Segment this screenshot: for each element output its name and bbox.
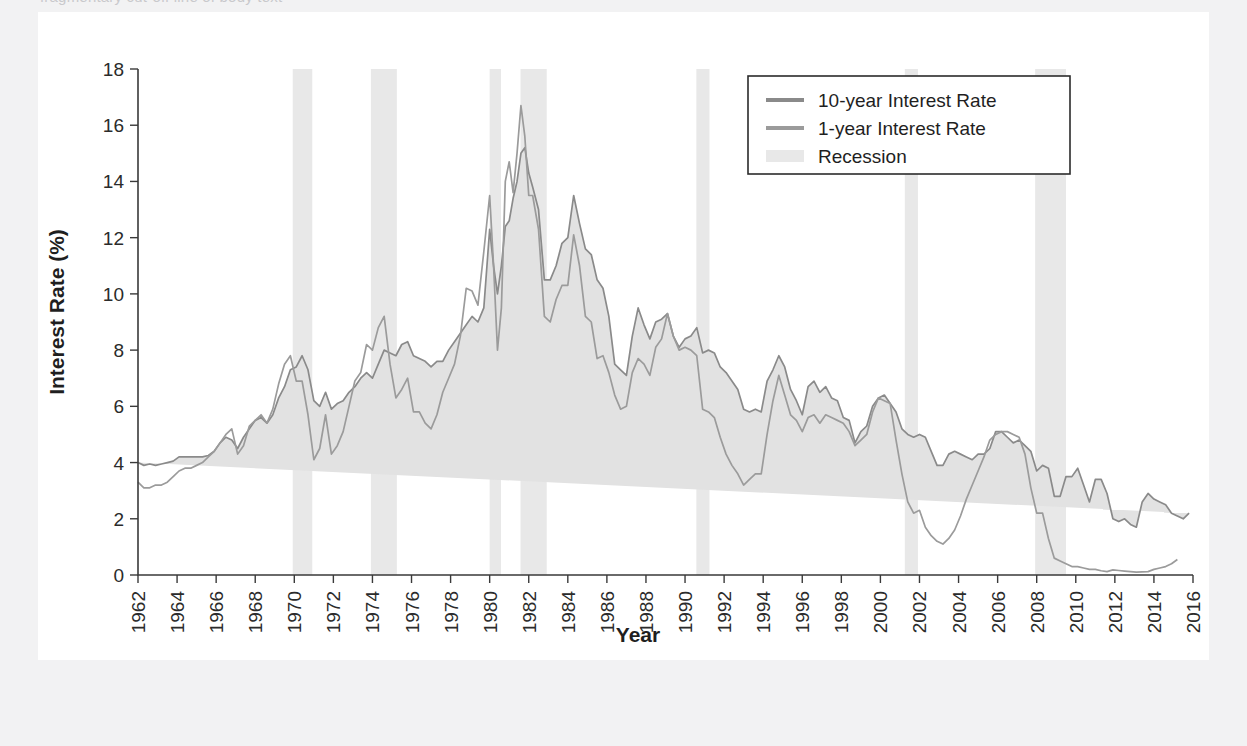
x-tick-label: 1980: [480, 591, 501, 633]
recession-band: [696, 69, 709, 575]
x-tick-label: 2004: [949, 591, 970, 634]
y-tick-label: 16: [103, 115, 124, 136]
x-tick-label: 2000: [870, 591, 891, 633]
y-tick-label: 8: [113, 340, 124, 361]
x-tick-label: 2016: [1183, 591, 1204, 633]
y-tick-label: 6: [113, 396, 124, 417]
y-tick-labels-group: 024681012141618: [103, 59, 125, 586]
legend-label: Recession: [818, 146, 907, 167]
page-top-cut-text-strip: fragmentary cut-off line of body text: [0, 0, 1247, 12]
x-tick-label: 1962: [128, 591, 149, 633]
y-tick-label: 10: [103, 284, 124, 305]
y-axis-title: Interest Rate (%): [45, 229, 68, 395]
x-tick-label: 2012: [1105, 591, 1126, 633]
x-tick-label: 1974: [362, 591, 383, 634]
y-tick-label: 4: [113, 453, 124, 474]
x-tick-label: 1998: [831, 591, 852, 633]
x-tick-label: 1972: [323, 591, 344, 633]
legend-patch-swatch: [766, 150, 804, 162]
y-tick-label: 14: [103, 171, 125, 192]
chart-legend: 10-year Interest Rate1-year Interest Rat…: [748, 76, 1070, 174]
y-tick-label: 18: [103, 59, 124, 80]
x-tick-label: 1994: [753, 591, 774, 634]
x-tick-label: 1964: [167, 591, 188, 634]
x-tick-label: 1968: [245, 591, 266, 633]
recession-band: [371, 69, 397, 575]
x-tick-label: 2006: [988, 591, 1009, 633]
x-tick-label: 1990: [675, 591, 696, 633]
interest-rate-chart: 1962196419661968197019721974197619781980…: [38, 12, 1209, 660]
y-tick-label: 2: [113, 509, 124, 530]
x-tick-label: 1976: [402, 591, 423, 633]
x-tick-label: 2014: [1144, 591, 1165, 634]
x-tick-label: 1992: [714, 591, 735, 633]
x-tick-label: 2008: [1027, 591, 1048, 633]
x-tick-label: 1982: [519, 591, 540, 633]
recession-band: [293, 69, 313, 575]
x-tick-label: 1970: [284, 591, 305, 633]
cut-off-body-text: fragmentary cut-off line of body text: [40, 0, 282, 5]
x-tick-label: 1978: [441, 591, 462, 633]
x-tick-label: 1966: [206, 591, 227, 633]
figure-panel: 1962196419661968197019721974197619781980…: [38, 12, 1209, 660]
x-tick-label: 1984: [558, 591, 579, 634]
x-tick-labels-group: 1962196419661968197019721974197619781980…: [128, 591, 1204, 634]
x-tick-label: 1996: [792, 591, 813, 633]
x-axis-title: Year: [616, 623, 660, 646]
x-tick-label: 2010: [1066, 591, 1087, 633]
x-tick-label: 2002: [909, 591, 930, 633]
legend-label: 1-year Interest Rate: [818, 118, 986, 139]
x-tick-label: 1986: [597, 591, 618, 633]
legend-label: 10-year Interest Rate: [818, 90, 996, 111]
y-tick-label: 0: [113, 565, 124, 586]
y-tick-label: 12: [103, 228, 124, 249]
